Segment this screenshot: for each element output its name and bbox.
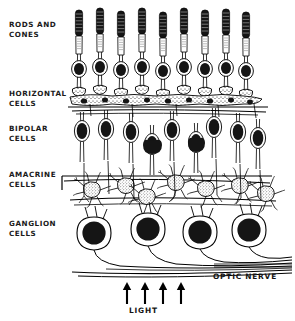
label-light: LIGHT: [129, 306, 158, 315]
label-ganglion-cells: GANGLION CELLS: [9, 219, 56, 238]
label-bipolar-cells: BIPOLAR CELLS: [9, 124, 48, 143]
label-horizontal-cells: HORIZONTAL CELLS: [9, 89, 67, 108]
bipolar-cell-layer: [74, 108, 265, 175]
label-rods-and-cones: RODS AND CONES: [9, 20, 56, 39]
ganglion-cell-layer: [77, 202, 266, 250]
label-amacrine-cells: AMACRINE CELLS: [9, 170, 56, 189]
label-optic-nerve: OPTIC NERVE: [213, 272, 277, 281]
photoreceptor-layer: [72, 8, 254, 99]
horizontal-cell-layer: [68, 95, 268, 119]
light-arrows: [123, 282, 185, 304]
